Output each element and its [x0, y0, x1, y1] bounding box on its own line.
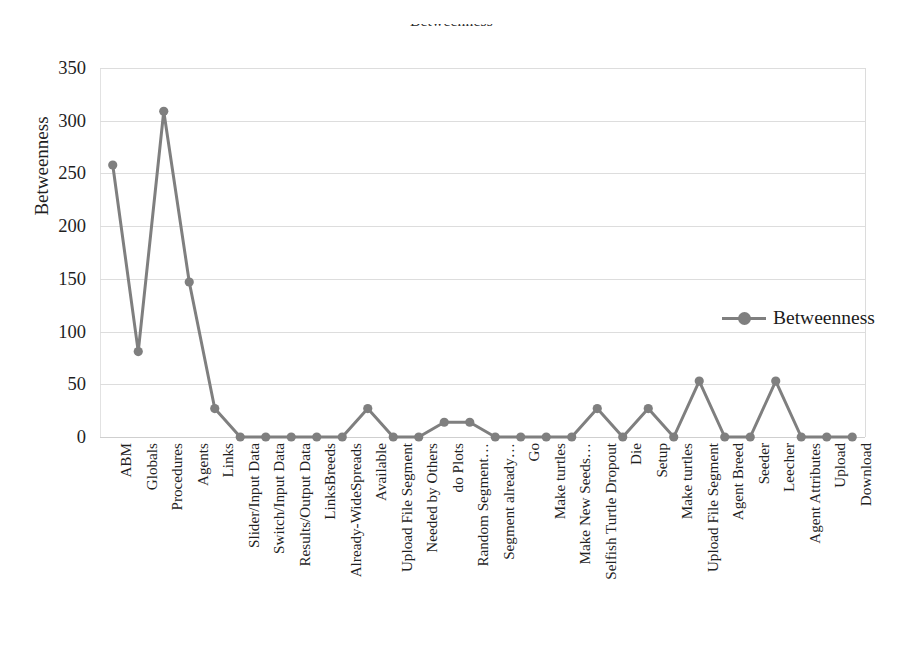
- data-point: [185, 277, 194, 286]
- x-tick-label: Download: [858, 443, 873, 506]
- x-tick-label: Seeder: [756, 443, 771, 484]
- x-tick-label: Globals: [144, 443, 159, 490]
- x-axis-tick-labels: ABMGlobalsProceduresAgentsLinksSlider/In…: [100, 437, 865, 647]
- chart-figure: Betweenness Betweenness 0501001502002503…: [0, 0, 903, 650]
- x-tick-label: Slider/Input Data: [246, 443, 261, 548]
- x-tick-label: Make turtles: [552, 443, 567, 519]
- x-tick-label: do Plots: [450, 443, 465, 492]
- data-point: [210, 404, 219, 413]
- data-point: [771, 377, 780, 386]
- chart-legend: Betweenness: [722, 305, 875, 331]
- series-line: [113, 111, 853, 437]
- x-tick-label: Make turtles: [679, 443, 694, 519]
- y-axis-tick-labels: 050100150200250300350: [0, 68, 86, 437]
- x-tick-label: Already-WideSpreads: [348, 443, 363, 577]
- x-tick-label: Switch/Input Data: [271, 443, 286, 554]
- y-tick-250: 250: [0, 163, 86, 184]
- y-tick-0: 0: [0, 427, 86, 448]
- x-tick-label: Setup: [654, 443, 669, 478]
- x-tick-label: Upload File Segment: [399, 443, 414, 572]
- x-tick-label: ABM: [118, 443, 133, 478]
- series-betweenness: [100, 68, 865, 437]
- data-point: [363, 404, 372, 413]
- data-point: [159, 107, 168, 116]
- plot-right-border: [865, 68, 866, 437]
- x-tick-label: Make New Seeds…: [577, 443, 592, 564]
- x-tick-label: Segment already…: [501, 443, 516, 560]
- legend-label: Betweenness: [773, 307, 875, 329]
- x-tick-label: Upload: [832, 443, 847, 488]
- chart-title: Betweenness: [0, 12, 903, 30]
- y-tick-350: 350: [0, 58, 86, 79]
- legend-marker-icon: [738, 312, 751, 325]
- x-tick-label: Agent Breed: [730, 443, 745, 520]
- data-point: [593, 404, 602, 413]
- x-tick-label: Die: [628, 443, 643, 465]
- y-tick-50: 50: [0, 374, 86, 395]
- x-tick-label: Available: [373, 443, 388, 501]
- data-point: [465, 418, 474, 427]
- x-tick-label: Agents: [195, 443, 210, 486]
- data-point: [134, 347, 143, 356]
- y-tick-300: 300: [0, 110, 86, 131]
- x-tick-label: Go: [526, 443, 541, 462]
- x-tick-label: Upload File Segment: [705, 443, 720, 572]
- x-tick-label: Random Segment…: [475, 443, 490, 567]
- data-point: [108, 160, 117, 169]
- data-point: [644, 404, 653, 413]
- x-tick-label: Agent Attributes: [807, 443, 822, 544]
- x-tick-label: Links: [220, 443, 235, 478]
- x-tick-label: Needed by Others: [424, 443, 439, 553]
- x-tick-label: Results/Output Data: [297, 443, 312, 567]
- x-tick-label: LinksBreeds: [322, 443, 337, 520]
- y-tick-150: 150: [0, 268, 86, 289]
- data-point: [695, 377, 704, 386]
- x-tick-label: Leecher: [781, 443, 796, 492]
- x-tick-label: Selfish Turtle Dropout: [603, 443, 618, 580]
- y-tick-100: 100: [0, 321, 86, 342]
- y-tick-200: 200: [0, 216, 86, 237]
- x-tick-label: Procedures: [169, 443, 184, 510]
- legend-swatch: [722, 311, 766, 325]
- data-point: [440, 418, 449, 427]
